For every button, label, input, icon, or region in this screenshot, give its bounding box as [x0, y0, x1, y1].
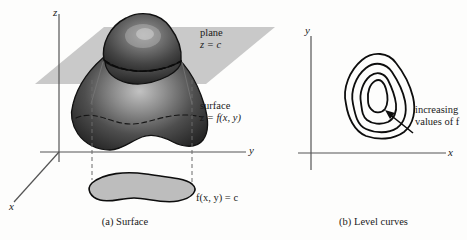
figure-root: z y x plane z = c surface z = f(x, y) f(…	[0, 0, 467, 240]
panel-level-curves: y x increasing values of f (b) Level cur…	[280, 0, 467, 240]
dome-highlight-core	[136, 28, 154, 40]
caption-panel-b: (b) Level curves	[280, 216, 467, 227]
surface-annotation-line2: z = f(x, y)	[200, 112, 241, 124]
axis-label-y-2d: y	[305, 24, 310, 37]
axis-label-y: y	[249, 144, 254, 157]
plane-annotation: plane z = c	[200, 27, 223, 52]
increasing-values-annotation: increasing values of f	[415, 104, 459, 129]
panel-surface: z y x plane z = c surface z = f(x, y) f(…	[0, 0, 280, 240]
axis-x	[14, 152, 59, 202]
increasing-values-line2: values of f	[415, 116, 459, 128]
projected-level-set	[89, 173, 195, 202]
increasing-values-line1: increasing	[415, 104, 459, 116]
axis-label-x: x	[9, 200, 14, 213]
surface-annotation-line1: surface	[200, 100, 241, 112]
plane-annotation-line2: z = c	[200, 39, 223, 51]
plane-annotation-line1: plane	[200, 27, 223, 39]
caption-panel-a: (a) Surface	[0, 216, 250, 227]
surface-annotation: surface z = f(x, y)	[200, 100, 241, 125]
axis-label-z: z	[53, 6, 57, 19]
axis-label-x-2d: x	[448, 146, 453, 159]
trace-annotation: f(x, y) = c	[196, 192, 238, 204]
level-curve-innermost	[368, 80, 388, 112]
